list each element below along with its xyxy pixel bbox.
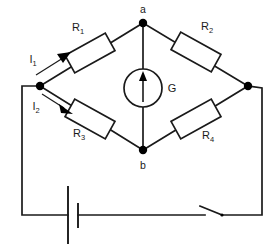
- resistor-R4-body: [171, 99, 221, 139]
- node-b-label: b: [140, 159, 146, 171]
- resistor-R1-label: R1: [72, 21, 84, 36]
- circuit-diagram-svg: R1 R2 R3 R4 G: [0, 0, 278, 247]
- node-left-dot: [36, 82, 44, 90]
- resistor-R3: R3: [65, 99, 115, 142]
- galvanometer: G: [124, 69, 176, 107]
- switch-blade[interactable]: [200, 206, 222, 215]
- node-b-dot: [139, 146, 147, 154]
- current-I2-indicator: I2: [32, 94, 73, 115]
- resistor-R4: R4: [171, 99, 221, 144]
- current-I1-label: I1: [29, 53, 36, 68]
- wire-switch-to-right-branch: [222, 86, 262, 215]
- resistor-R1: R1: [65, 21, 115, 73]
- node-a-label: a: [140, 3, 146, 15]
- resistor-R4-label: R4: [202, 129, 214, 144]
- node-right-dot: [244, 82, 252, 90]
- resistor-R2-label: R2: [201, 20, 213, 35]
- node-a-dot: [139, 19, 147, 27]
- wire-left-branch-to-battery: [22, 86, 68, 215]
- battery-symbol: [68, 186, 78, 244]
- resistor-R2: R2: [171, 20, 221, 72]
- resistor-R2-body: [171, 32, 221, 72]
- galvanometer-label: G: [168, 82, 177, 94]
- wheatstone-bridge-figure: R1 R2 R3 R4 G: [0, 0, 278, 247]
- resistor-R3-label: R3: [73, 127, 85, 142]
- current-I2-label: I2: [32, 100, 39, 115]
- switch-pivot-contact: [220, 213, 223, 216]
- current-I1-arrow-shaft: [36, 58, 63, 75]
- resistor-R1-body: [65, 33, 115, 73]
